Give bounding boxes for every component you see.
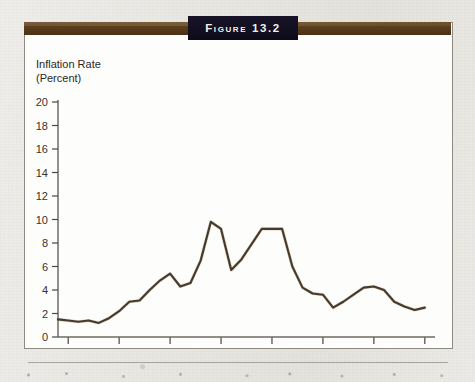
inflation-rate-line-shadow bbox=[58, 222, 425, 323]
inflation-rate-line bbox=[58, 222, 425, 323]
y-tick-label: 20 bbox=[36, 96, 48, 108]
y-tick-label: 4 bbox=[42, 284, 48, 296]
y-tick-label: 12 bbox=[36, 190, 48, 202]
y-axis-ticks: 02468101214161820 bbox=[36, 96, 58, 343]
y-tick-label: 14 bbox=[36, 167, 48, 179]
y-tick-label: 18 bbox=[36, 120, 48, 132]
x-axis-ticks: 19601965197019751980198519901995 bbox=[56, 337, 437, 347]
inflation-line-chart: 02468101214161820 1960196519701975198019… bbox=[24, 22, 451, 347]
page-bottom-text-speckle bbox=[0, 368, 475, 382]
y-tick-label: 2 bbox=[42, 308, 48, 320]
y-tick-label: 10 bbox=[36, 214, 48, 226]
y-tick-label: 6 bbox=[42, 261, 48, 273]
y-tick-label: 0 bbox=[42, 331, 48, 343]
y-tick-label: 16 bbox=[36, 143, 48, 155]
page-rule-line bbox=[28, 362, 448, 363]
y-tick-label: 8 bbox=[42, 237, 48, 249]
